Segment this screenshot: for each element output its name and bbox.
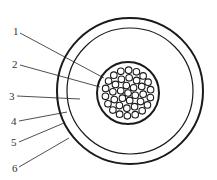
conductor-strand xyxy=(110,107,117,114)
label-1-text: 1 xyxy=(13,25,19,37)
conductor-strand xyxy=(140,73,147,80)
conductor-strand xyxy=(117,87,124,94)
conductor-strand xyxy=(126,75,133,82)
conductor-strand xyxy=(132,111,139,118)
conductor-strand xyxy=(102,85,109,92)
conductor-strand xyxy=(147,94,154,101)
label-3: 3 xyxy=(9,90,80,102)
label-6-text: 6 xyxy=(12,162,18,174)
leader-line-5 xyxy=(19,123,64,142)
conductor-strand xyxy=(145,79,152,86)
conductor-strand xyxy=(117,68,124,75)
conductor-strand xyxy=(125,67,132,74)
conductor-strand xyxy=(130,85,137,92)
conductor-strand xyxy=(137,98,144,105)
conductor-strand xyxy=(105,78,112,85)
conductor-strand xyxy=(131,103,138,110)
conductor-strand xyxy=(111,96,118,103)
conductor-strand xyxy=(105,101,112,108)
label-2-text: 2 xyxy=(12,58,18,70)
conductor-strand xyxy=(139,108,146,115)
label-2: 2 xyxy=(12,58,100,87)
conductor-strand xyxy=(102,93,109,100)
label-5: 5 xyxy=(11,123,64,148)
conductor-strand xyxy=(124,105,131,112)
conductor-strand xyxy=(144,102,151,109)
label-4: 4 xyxy=(11,112,67,127)
conductor-strand xyxy=(140,91,147,98)
conductor-strand xyxy=(126,97,133,104)
conductor-strand xyxy=(118,76,125,83)
conductor-strand xyxy=(119,95,126,102)
conductor-strand xyxy=(138,83,145,90)
conductor-strand xyxy=(147,86,154,93)
label-3-text: 3 xyxy=(9,90,15,102)
conductor-strand xyxy=(116,111,123,118)
label-6: 6 xyxy=(12,138,69,174)
label-5-text: 5 xyxy=(11,136,17,148)
leader-line-6 xyxy=(19,138,69,167)
conductor-strand xyxy=(116,102,123,109)
conductor-strand xyxy=(110,89,117,96)
conductor-strand xyxy=(133,77,140,84)
label-1: 1 xyxy=(13,25,104,78)
label-4-text: 4 xyxy=(11,115,17,127)
conductor-strand xyxy=(123,82,130,89)
leader-line-3 xyxy=(17,96,80,99)
cable-cross-section-diagram: 1 2 3 4 5 6 xyxy=(0,0,217,180)
conductor-strand xyxy=(133,68,140,75)
conductor-strand xyxy=(112,81,119,88)
conductor-strand xyxy=(124,112,131,119)
conductor-strand xyxy=(132,92,139,99)
leader-line-1 xyxy=(20,33,104,78)
conductor-strand xyxy=(111,72,118,79)
conductor-strand xyxy=(125,90,132,97)
leader-line-4 xyxy=(19,112,67,121)
